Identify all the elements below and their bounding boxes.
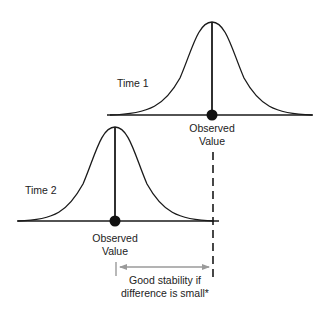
difference-indicator: Good stability if difference is small* bbox=[116, 262, 209, 299]
time1-distribution: Time 1 Observed Value bbox=[107, 22, 313, 147]
time2-observed-dot bbox=[110, 216, 121, 227]
time2-bell-curve bbox=[18, 127, 214, 221]
time2-observed-label-line1: Observed bbox=[92, 232, 138, 244]
time1-label: Time 1 bbox=[117, 77, 149, 89]
time1-bell-curve bbox=[110, 22, 312, 115]
stability-annotation-line1: Good stability if bbox=[129, 274, 201, 286]
stability-diagram: Time 1 Observed Value Time 2 Observed Va… bbox=[0, 0, 330, 314]
time1-observed-dot bbox=[207, 110, 218, 121]
time1-observed-label-line1: Observed bbox=[189, 122, 235, 134]
time2-label: Time 2 bbox=[25, 184, 57, 196]
time2-observed-label-line2: Value bbox=[102, 245, 128, 257]
stability-annotation-line2: difference is small* bbox=[121, 287, 209, 299]
time2-distribution: Time 2 Observed Value bbox=[17, 127, 219, 257]
time1-observed-label-line2: Value bbox=[199, 135, 225, 147]
